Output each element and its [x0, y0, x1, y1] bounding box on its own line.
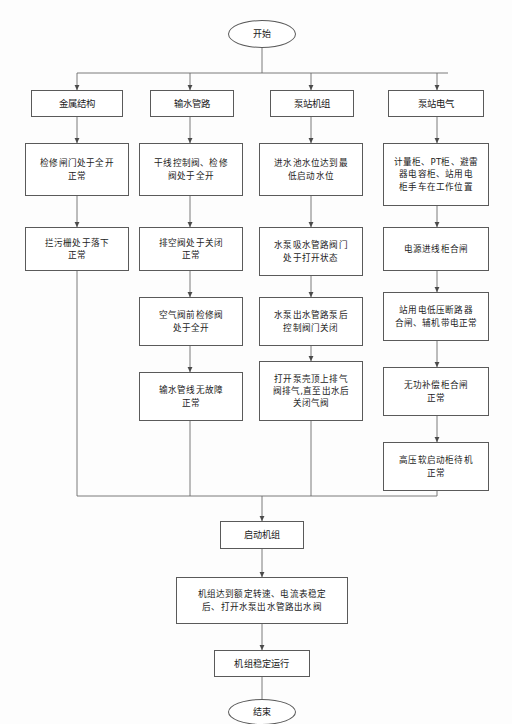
group-header-label: 输水管路	[174, 97, 211, 110]
step-label: 输水管线无故障 正常	[159, 384, 223, 408]
step-water-pipeline-1[interactable]: 干线控制阀、检修 阀处于全开	[139, 143, 243, 196]
step-label: 排空阀处于关闭 正常	[159, 237, 223, 261]
step-pump-station-electrical-3[interactable]: 站用电低压断路器 合闸、辅机带电正常	[383, 292, 489, 341]
step-pump-station-electrical-1[interactable]: 计量柜、PT柜、避雷 器电容柜、站用电 柜手车在工作位置	[383, 143, 489, 206]
step-label: 检修闸门处于全开 正常	[40, 157, 114, 181]
step-pump-station-electrical-4[interactable]: 无功补偿柜合闸 正常	[383, 367, 489, 416]
step-label: 干线控制阀、检修 阀处于全开	[154, 157, 228, 181]
step-label: 高压软启动柜待机 正常	[399, 454, 473, 478]
end-terminal[interactable]: 结束	[228, 699, 296, 724]
stage-label: 启动机组	[244, 528, 281, 541]
stage-start-unit[interactable]: 启动机组	[220, 521, 304, 549]
end-label: 结束	[253, 706, 271, 719]
group-header-metal-structure[interactable]: 金属结构	[31, 90, 123, 117]
group-header-label: 泵站电气	[418, 97, 455, 110]
step-label: 打开泵壳顶上排气 阀排气,直至出水后 关闭气阀	[273, 373, 350, 410]
step-pump-station-electrical-2[interactable]: 电源进线柜合闸	[383, 227, 489, 271]
step-metal-structure-2[interactable]: 拦污栅处于落下 正常	[25, 227, 129, 271]
stage-label: 机组达到额定转速、电流表稳定 后、打开水泵出水管路出水阀	[198, 588, 327, 612]
step-water-pipeline-3[interactable]: 空气阀前检修阀 处于全开	[139, 297, 243, 346]
step-label: 计量柜、PT柜、避雷 器电容柜、站用电 柜手车在工作位置	[394, 156, 478, 193]
step-label: 电源进线柜合闸	[404, 243, 468, 255]
step-pump-station-unit-1[interactable]: 进水池水位达到最 低启动水位	[259, 143, 363, 196]
step-metal-structure-1[interactable]: 检修闸门处于全开 正常	[25, 143, 129, 196]
step-pump-station-electrical-5[interactable]: 高压软启动柜待机 正常	[383, 442, 489, 491]
start-terminal[interactable]: 开始	[228, 20, 296, 48]
step-pump-station-unit-3[interactable]: 水泵出水管路泵后 控制阀门关闭	[259, 297, 363, 346]
step-label: 水泵吸水管路阀门 处于打开状态	[274, 239, 348, 263]
step-label: 空气阀前检修阀 处于全开	[159, 309, 223, 333]
stage-label: 机组稳定运行	[234, 657, 289, 670]
group-header-label: 金属结构	[59, 97, 96, 110]
stage-stable-operation[interactable]: 机组稳定运行	[214, 650, 310, 677]
step-label: 无功补偿柜合闸 正常	[404, 379, 468, 403]
step-label: 拦污栅处于落下 正常	[45, 237, 109, 261]
step-label: 水泵出水管路泵后 控制阀门关闭	[274, 309, 348, 333]
step-water-pipeline-2[interactable]: 排空阀处于关闭 正常	[139, 227, 243, 271]
flowchart-canvas: 开始 金属结构 输水管路 泵站机组 泵站电气 检修闸门处于全开 正常 拦污栅处于…	[0, 0, 512, 724]
step-pump-station-unit-2[interactable]: 水泵吸水管路阀门 处于打开状态	[259, 227, 363, 276]
step-label: 站用电低压断路器 合闸、辅机带电正常	[395, 304, 478, 328]
group-header-label: 泵站机组	[294, 97, 331, 110]
group-header-pump-station-unit[interactable]: 泵站机组	[270, 90, 354, 117]
step-water-pipeline-4[interactable]: 输水管线无故障 正常	[139, 372, 243, 421]
group-header-water-pipeline[interactable]: 输水管路	[150, 90, 234, 117]
step-label: 进水池水位达到最 低启动水位	[274, 157, 348, 181]
group-header-pump-station-electrical[interactable]: 泵站电气	[388, 90, 484, 117]
stage-rated-speed-open-valve[interactable]: 机组达到额定转速、电流表稳定 后、打开水泵出水管路出水阀	[176, 577, 348, 624]
step-pump-station-unit-4[interactable]: 打开泵壳顶上排气 阀排气,直至出水后 关闭气阀	[259, 361, 363, 421]
start-label: 开始	[253, 28, 271, 41]
